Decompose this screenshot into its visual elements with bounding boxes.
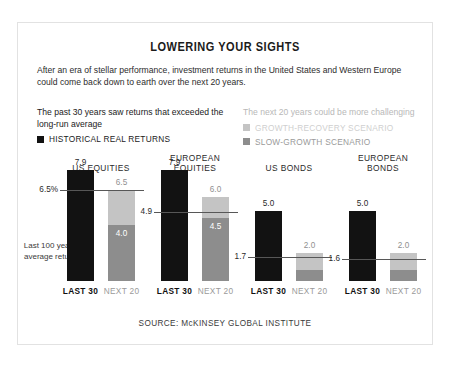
bar-next20-european-bonds — [390, 253, 417, 281]
bar-label-last30-us-bonds: LAST 30 — [246, 286, 291, 296]
segment-slow-growth — [296, 270, 323, 281]
segment-slow-growth — [108, 225, 135, 281]
legend-label-growth-recovery: GROWTH-RECOVERY SCENARIO — [255, 123, 393, 133]
bar-last30-european-bonds — [349, 211, 376, 281]
bar-next20-european-equities — [202, 197, 229, 281]
legend-item-historical: HISTORICAL REAL RETURNS — [37, 134, 237, 144]
bar-label-next20-us-equities: NEXT 20 — [99, 286, 144, 296]
segment-slow-growth — [390, 270, 417, 281]
legend-label-historical: HISTORICAL REAL RETURNS — [49, 134, 170, 144]
reference-value-us-bonds: 1.7 — [214, 252, 246, 261]
source-credit: SOURCE: McKINSEY GLOBAL INSTITUTE — [18, 319, 432, 328]
reference-value-european-bonds: 1.6 — [308, 254, 340, 263]
infographic-card: LOWERING YOUR SIGHTS After an era of ste… — [17, 22, 433, 345]
legend-column-scenarios: The next 20 years could be more challeng… — [243, 107, 423, 147]
bar-label-next20-european-equities: NEXT 20 — [193, 286, 238, 296]
legend-swatch-slow-growth-icon — [243, 138, 250, 145]
value-label-last30-us-equities: 7.9 — [59, 158, 102, 167]
bar-last30-us-bonds — [255, 211, 282, 281]
reference-line-european-bonds — [342, 259, 426, 260]
bar-label-last30-european-bonds: LAST 30 — [340, 286, 385, 296]
bar-last30-us-equities — [67, 170, 94, 281]
page-title: LOWERING YOUR SIGHTS — [43, 40, 407, 54]
legend-item-growth-recovery: GROWTH-RECOVERY SCENARIO — [243, 123, 423, 133]
legend-swatch-historical-icon — [37, 136, 44, 143]
legend: The past 30 years saw returns that excee… — [37, 107, 422, 159]
segment-slow-growth — [202, 218, 229, 281]
bar-label-next20-european-bonds: NEXT 20 — [381, 286, 426, 296]
bar-label-next20-us-bonds: NEXT 20 — [287, 286, 332, 296]
bar-next20-us-bonds — [296, 253, 323, 281]
reference-value-us-equities: 6.5% — [26, 185, 58, 194]
bar-label-last30-us-equities: LAST 30 — [58, 286, 103, 296]
legend-column-historical: The past 30 years saw returns that excee… — [37, 107, 237, 144]
axis-note: Last 100 years average return — [23, 240, 77, 262]
bar-last30-european-equities — [161, 170, 188, 281]
value-label-next20-european-equities: 6.0 — [194, 185, 237, 194]
value-label-slow-european-equities: 4.5 — [202, 222, 229, 231]
legend-heading-right: The next 20 years could be more challeng… — [243, 107, 423, 119]
reference-line-us-equities — [60, 190, 144, 191]
value-label-slow-us-equities: 4.0 — [108, 229, 135, 238]
segment-growth-recovery — [390, 253, 417, 270]
reference-line-european-equities — [154, 212, 238, 213]
group-title-us-bonds: US BONDS — [250, 163, 328, 173]
value-label-last30-european-bonds: 5.0 — [341, 199, 384, 208]
group-title-us-equities: US EQUITIES — [62, 163, 140, 173]
legend-item-slow-growth: SLOW-GROWTH SCENARIO — [243, 137, 423, 147]
value-label-last30-european-equities: 7.9 — [153, 158, 196, 167]
bar-label-last30-european-equities: LAST 30 — [152, 286, 197, 296]
segment-growth-recovery — [202, 197, 229, 218]
legend-heading-left: The past 30 years saw returns that excee… — [37, 107, 237, 130]
legend-swatch-growth-recovery-icon — [243, 124, 250, 131]
deck-text: After an era of stellar performance, inv… — [37, 64, 417, 88]
bar-next20-us-equities — [108, 190, 135, 281]
value-label-next20-european-bonds: 2.0 — [382, 241, 425, 250]
legend-label-slow-growth: SLOW-GROWTH SCENARIO — [255, 137, 370, 147]
reference-line-us-bonds — [248, 257, 332, 258]
segment-growth-recovery — [296, 253, 323, 270]
value-label-next20-us-equities: 6.5 — [100, 178, 143, 187]
segment-growth-recovery — [108, 190, 135, 225]
value-label-next20-us-bonds: 2.0 — [288, 241, 331, 250]
reference-value-european-equities: 4.9 — [120, 207, 152, 216]
value-label-last30-us-bonds: 5.0 — [247, 199, 290, 208]
